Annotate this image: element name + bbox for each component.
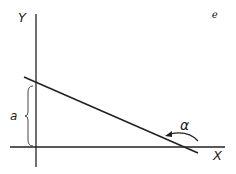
angle-arc-arrow bbox=[170, 133, 198, 141]
corner-mark: ℯ bbox=[212, 9, 218, 20]
sloped-line bbox=[24, 77, 198, 153]
x-axis-label: X bbox=[212, 148, 223, 163]
arrowhead-icon bbox=[165, 131, 172, 137]
line-intercept-diagram: Y X a α ℯ bbox=[0, 0, 236, 174]
intercept-brace bbox=[25, 86, 33, 146]
intercept-label: a bbox=[10, 109, 17, 123]
angle-label: α bbox=[180, 117, 190, 133]
y-axis-label: Y bbox=[18, 10, 27, 25]
